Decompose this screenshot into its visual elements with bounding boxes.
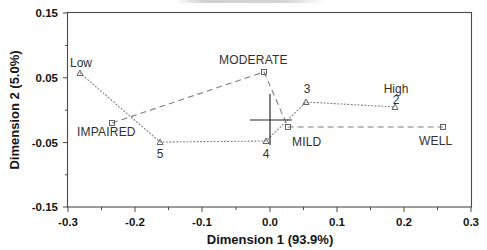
point-label-mild: MILD xyxy=(292,135,322,149)
point-label-5: 5 xyxy=(157,147,164,161)
x-tick-label-3: 0.0 xyxy=(262,216,278,228)
point-label-low: Low xyxy=(70,56,92,70)
point-label-3: 3 xyxy=(304,82,311,96)
point-label-well: WELL xyxy=(419,134,453,148)
point-label-moderate: MODERATE xyxy=(219,53,288,67)
x-axis-major-ticks xyxy=(68,207,471,212)
point-label-4: 4 xyxy=(263,147,270,161)
y-tick-label-2: -0.05 xyxy=(32,137,59,149)
y-tick-label-1: 0.05 xyxy=(36,72,59,84)
scatter-plot-canvas: 0.15 0.05 -0.05 -0.15 -0.3 -0.2 -0.1 0.0… xyxy=(0,0,487,250)
x-tick-label-6: 0.3 xyxy=(463,216,479,228)
x-tick-label-0: -0.3 xyxy=(58,216,78,228)
x-tick-label-2: -0.1 xyxy=(192,216,212,228)
point-label-2: 2 xyxy=(393,93,400,107)
x-axis-title: Dimension 1 (93.9%) xyxy=(207,232,333,247)
x-tick-label-1: -0.2 xyxy=(125,216,145,228)
x-tick-label-4: 0.1 xyxy=(329,216,346,228)
y-tick-label-3: -0.15 xyxy=(32,201,59,213)
correspondence-analysis-figure: 0.15 0.05 -0.05 -0.15 -0.3 -0.2 -0.1 0.0… xyxy=(0,0,487,250)
point-label-impaired: IMPAIRED xyxy=(77,125,136,139)
y-axis-title: Dimension 2 (5.0%) xyxy=(7,50,22,169)
y-tick-label-0: 0.15 xyxy=(36,7,59,19)
x-tick-label-5: 0.2 xyxy=(396,216,412,228)
origin-crosshair xyxy=(250,94,292,145)
